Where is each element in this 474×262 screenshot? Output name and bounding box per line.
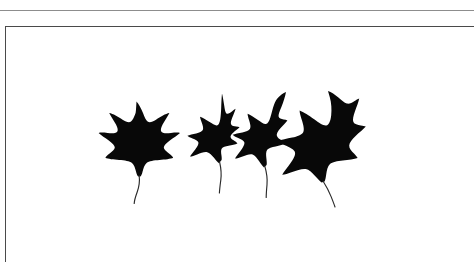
leaf-1-blade — [99, 102, 180, 177]
leaf-2-narrow — [187, 94, 239, 194]
leaf-2-blade — [187, 94, 239, 164]
leaf-3-blade — [233, 92, 288, 167]
leaf-3-stem — [265, 166, 267, 197]
leaf-4-stem — [323, 181, 335, 207]
top-hairline-rule — [0, 10, 474, 11]
leaf-silhouette-group — [74, 83, 374, 213]
leaf-1-stem — [134, 176, 139, 204]
plate-inner-canvas — [6, 27, 474, 262]
leaf-1-maple — [99, 102, 180, 204]
page-root — [0, 0, 474, 262]
leaf-4-broad — [278, 91, 366, 207]
leaf-2-stem — [219, 162, 221, 193]
illustration-plate-frame — [5, 26, 474, 262]
leaf-4-blade — [278, 91, 366, 182]
leaf-3-curled — [233, 92, 288, 197]
